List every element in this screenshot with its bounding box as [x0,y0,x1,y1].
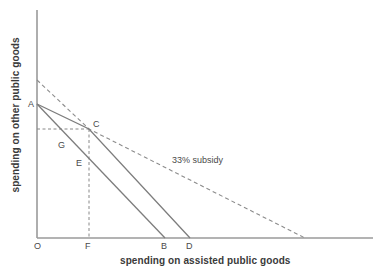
point-label-C: C [93,120,100,129]
point-label-F: F [85,242,91,251]
subsidy-annotation: 33% subsidy [172,155,223,165]
point-label-D: D [186,242,193,251]
point-label-E: E [76,159,82,168]
chart-background [0,0,373,277]
point-label-B: B [161,242,167,251]
point-label-A: A [28,100,34,109]
point-label-O: O [34,242,41,251]
economics-budget-line-diagram [0,0,373,277]
point-label-G: G [58,141,65,150]
y-axis-label: spending on other public goods [10,43,21,193]
x-axis-label: spending on assisted public goods [120,255,291,266]
